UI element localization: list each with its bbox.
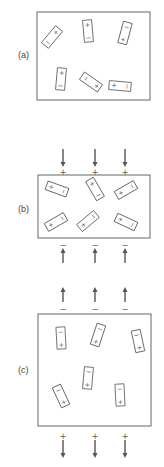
dipole-bottom-sign: + — [117, 398, 123, 406]
dipole: +− — [86, 177, 105, 201]
field-arrow-up: − — [92, 241, 99, 263]
surface-charge-sign: + — [60, 168, 67, 177]
arrow-up-icon — [61, 287, 66, 292]
dipole-top-sign: − — [85, 368, 91, 376]
dipole: −+ — [131, 329, 144, 352]
dipole-alignment-diagram: (a)+−+−−++−−++−(b)+−+−+−+−+−+−+++−−−(c)−… — [0, 0, 164, 467]
panel-label: (c) — [18, 365, 29, 375]
dipole: −+ — [115, 384, 125, 406]
arrow-up-icon — [93, 287, 98, 292]
panel-label: (b) — [18, 204, 29, 214]
dipole: +− — [41, 26, 62, 49]
arrow-up-icon — [123, 287, 128, 292]
surface-charge-sign: + — [92, 168, 99, 177]
dipole-bottom-sign: − — [123, 84, 131, 90]
field-arrow-down: + — [60, 432, 67, 458]
arrow-down-icon — [123, 162, 128, 167]
dipole: −+ — [79, 72, 102, 92]
panel-a: (a)+−+−−++−−++− — [18, 12, 150, 100]
surface-charge-sign: − — [92, 305, 99, 314]
dipole-bottom-sign: − — [86, 34, 92, 42]
dipole-top-sign: + — [84, 21, 90, 29]
field-arrow-down: + — [92, 149, 99, 177]
field-arrow-up: − — [122, 287, 129, 314]
field-arrow-up: − — [92, 287, 99, 314]
dipole: −+ — [56, 327, 66, 349]
surface-charge-sign: + — [122, 168, 129, 177]
surface-charge-sign: − — [92, 241, 99, 250]
panel-b: (b)+−+−+−+−+−+−+++−−− — [18, 149, 150, 263]
field-arrow-up: − — [60, 241, 67, 263]
dipole-top-sign: + — [110, 82, 118, 88]
dipole-top-sign: − — [117, 385, 123, 393]
dipole: +− — [114, 181, 138, 200]
surface-charge-sign: − — [60, 305, 67, 314]
arrow-down-icon — [123, 453, 128, 458]
field-arrow-down: + — [122, 149, 129, 177]
dipole: +− — [77, 210, 100, 231]
field-arrow-down: + — [122, 432, 129, 458]
surface-charge-sign: + — [92, 432, 99, 441]
surface-charge-sign: − — [122, 305, 129, 314]
field-arrow-up: − — [122, 241, 129, 263]
dipole: +− — [45, 181, 69, 197]
dipole: +− — [56, 68, 67, 91]
dipole: −+ — [90, 323, 105, 347]
dipole: +− — [83, 20, 94, 43]
dipole: +− — [114, 213, 138, 230]
dipole: −+ — [118, 21, 132, 45]
dipole: +− — [44, 213, 68, 232]
dipole: +− — [109, 81, 132, 92]
panel-label: (a) — [18, 50, 29, 60]
dipole-bottom-sign: + — [84, 381, 90, 389]
dipole-bottom-sign: − — [57, 82, 63, 90]
field-arrow-down: + — [60, 149, 67, 177]
surface-charge-sign: + — [60, 432, 67, 441]
dipole-top-sign: − — [58, 328, 64, 336]
dipole-top-sign: + — [58, 69, 64, 77]
dipole-bottom-sign: + — [58, 341, 64, 349]
arrow-down-icon — [61, 162, 66, 167]
dipole: −+ — [52, 384, 69, 408]
arrow-down-icon — [93, 162, 98, 167]
surface-charge-sign: − — [122, 241, 129, 250]
dipole: −+ — [83, 367, 94, 390]
surface-charge-sign: + — [122, 432, 129, 441]
panel-c: (c)−+−+−+−+−+−+−−−+++ — [18, 287, 151, 458]
arrow-down-icon — [61, 453, 66, 458]
surface-charge-sign: − — [60, 241, 67, 250]
field-arrow-up: − — [60, 287, 67, 314]
field-arrow-down: + — [92, 432, 99, 458]
arrow-down-icon — [93, 453, 98, 458]
